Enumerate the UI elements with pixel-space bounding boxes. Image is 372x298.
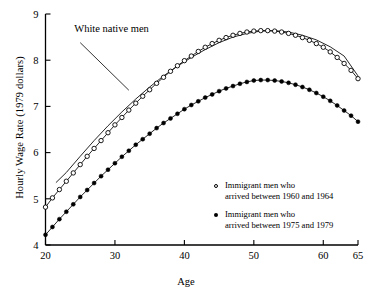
data-point-marker — [238, 31, 242, 35]
data-point-marker — [106, 131, 110, 135]
series-line — [56, 31, 358, 183]
data-point-marker — [286, 31, 290, 35]
data-point-marker — [307, 38, 311, 42]
data-point-marker — [162, 121, 166, 125]
data-point-marker — [64, 179, 68, 183]
data-point-marker — [169, 116, 173, 120]
legend-item-label-line2: arrived between 1975 and 1979 — [225, 220, 333, 231]
data-point-marker — [293, 33, 297, 37]
open-circle-icon — [213, 180, 225, 191]
data-point-marker — [272, 29, 276, 33]
data-point-marker — [203, 96, 207, 100]
data-point-marker — [307, 88, 311, 92]
data-point-marker — [300, 35, 304, 39]
data-point-marker — [273, 79, 277, 83]
data-point-marker — [85, 154, 89, 158]
data-point-marker — [168, 69, 172, 73]
data-point-marker — [217, 38, 221, 42]
data-point-marker — [50, 225, 54, 229]
data-point-marker — [106, 168, 110, 172]
data-point-marker — [85, 188, 89, 192]
data-point-marker — [279, 30, 283, 34]
data-point-marker — [314, 91, 318, 95]
data-point-marker — [335, 103, 339, 107]
data-point-marker — [300, 85, 304, 89]
data-point-marker — [328, 50, 332, 54]
data-point-marker — [44, 233, 48, 237]
data-point-marker — [120, 115, 124, 119]
data-point-marker — [321, 95, 325, 99]
data-point-marker — [252, 79, 256, 83]
data-point-marker — [196, 49, 200, 53]
data-point-marker — [189, 54, 193, 58]
data-point-marker — [175, 112, 179, 116]
data-point-marker — [224, 86, 228, 90]
data-point-marker — [266, 28, 270, 32]
y-tick-label: 8 — [33, 55, 38, 66]
x-tick-label: 50 — [249, 250, 260, 261]
data-point-marker — [57, 187, 61, 191]
x-tick-label: 30 — [110, 250, 121, 261]
legend-item: Immigrant men who arrived between 1975 a… — [213, 209, 333, 231]
data-point-marker — [134, 101, 138, 105]
data-point-marker — [245, 80, 249, 84]
data-point-marker — [99, 174, 103, 178]
data-point-marker — [356, 76, 360, 80]
data-point-marker — [203, 45, 207, 49]
data-point-marker — [113, 123, 117, 127]
chart-legend: Immigrant men who arrived between 1960 a… — [213, 180, 333, 238]
data-point-marker — [92, 181, 96, 185]
data-point-marker — [127, 149, 131, 153]
data-point-marker — [210, 92, 214, 96]
x-tick-label: 60 — [318, 250, 329, 261]
data-point-marker — [349, 114, 353, 118]
data-point-marker — [175, 64, 179, 68]
legend-item-label-line1: Immigrant men who — [225, 180, 333, 191]
data-point-marker — [349, 68, 353, 72]
data-point-marker — [224, 35, 228, 39]
data-point-marker — [71, 202, 75, 206]
data-point-marker — [147, 88, 151, 92]
data-point-marker — [99, 138, 103, 142]
legend-item: Immigrant men who arrived between 1960 a… — [213, 180, 333, 202]
data-point-marker — [314, 41, 318, 45]
data-point-marker — [127, 108, 131, 112]
x-tick-label: 20 — [40, 250, 51, 261]
data-point-marker — [217, 89, 221, 93]
data-point-marker — [113, 161, 117, 165]
data-point-marker — [154, 81, 158, 85]
filled-circle-icon — [213, 209, 225, 220]
data-point-marker — [189, 103, 193, 107]
data-point-marker — [78, 162, 82, 166]
data-point-marker — [196, 99, 200, 103]
legend-item-label-line2: arrived between 1960 and 1964 — [225, 191, 333, 202]
data-point-marker — [328, 99, 332, 103]
data-point-marker — [287, 81, 291, 85]
data-point-marker — [238, 82, 242, 86]
data-point-marker — [120, 155, 124, 159]
data-point-marker — [92, 146, 96, 150]
data-point-marker — [259, 78, 263, 82]
data-point-marker — [231, 84, 235, 88]
data-point-marker — [182, 107, 186, 111]
data-point-marker — [245, 30, 249, 34]
plot-area: 456789203040506065 — [0, 0, 372, 298]
data-point-marker — [210, 41, 214, 45]
data-point-marker — [64, 210, 68, 214]
data-point-marker — [134, 143, 138, 147]
x-tick-label: 40 — [179, 250, 190, 261]
data-point-marker — [155, 126, 159, 130]
legend-item-label-line1: Immigrant men who — [225, 209, 333, 220]
data-point-marker — [141, 94, 145, 98]
x-tick-label: 65 — [353, 250, 364, 261]
data-point-marker — [294, 83, 298, 87]
data-point-marker — [182, 58, 186, 62]
data-point-marker — [259, 28, 263, 32]
data-point-marker — [356, 120, 360, 124]
data-point-marker — [321, 45, 325, 49]
data-point-marker — [266, 78, 270, 82]
data-point-marker — [43, 205, 47, 209]
data-point-marker — [141, 137, 145, 141]
data-point-marker — [342, 61, 346, 65]
y-tick-label: 4 — [33, 240, 39, 251]
